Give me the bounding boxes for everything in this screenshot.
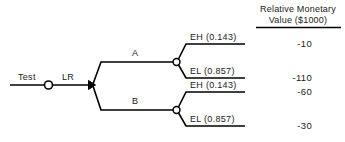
value-a-eh: -10 xyxy=(262,38,312,49)
value-column-header: Relative Monetary Value ($1000) xyxy=(252,4,344,26)
decision-tree-figure: Relative Monetary Value ($1000) Test LR … xyxy=(0,0,345,142)
branch-a-eh-line xyxy=(178,44,245,60)
outcome-label-a-eh: EH (0.143) xyxy=(190,32,237,42)
outcome-label-a-el: EL (0.857) xyxy=(190,66,235,76)
value-column-header-line-1: Relative Monetary xyxy=(252,4,344,15)
value-a-el: -110 xyxy=(262,72,312,83)
value-b-eh: -60 xyxy=(262,86,312,97)
chance-node-circle-root xyxy=(45,81,53,89)
chance-node-circle-b xyxy=(173,107,180,114)
branch-b-eh-line xyxy=(178,92,245,108)
branch-label-b: B xyxy=(132,96,138,106)
root-label-lr: LR xyxy=(62,72,74,82)
chance-node-circle-a xyxy=(173,59,180,66)
outcome-label-b-eh: EH (0.143) xyxy=(190,80,237,90)
branch-label-a: A xyxy=(132,48,138,58)
value-column-header-line-2: Value ($1000) xyxy=(252,15,344,26)
value-b-el: -30 xyxy=(262,120,312,131)
branch-a-line xyxy=(93,62,175,84)
root-label-test: Test xyxy=(18,72,36,82)
outcome-label-b-el: EL (0.857) xyxy=(190,114,235,124)
